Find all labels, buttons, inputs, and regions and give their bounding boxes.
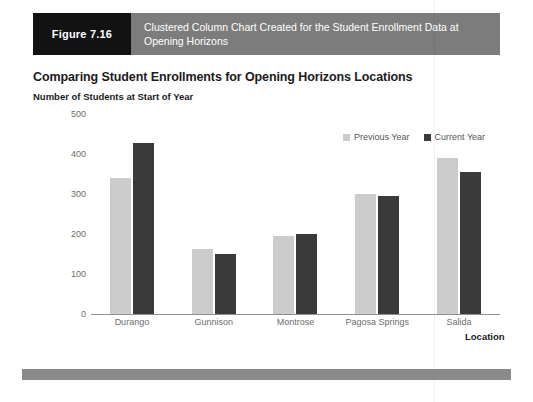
bar-current-year[interactable] (296, 234, 317, 314)
y-tick-label: 400 (71, 149, 86, 159)
x-axis-label: Gunnison (173, 317, 255, 327)
x-axis-label: Durango (91, 317, 173, 327)
x-axis-label: Montrose (255, 317, 337, 327)
bar-current-year[interactable] (460, 172, 481, 314)
bar-group (336, 114, 418, 314)
figure-number-box: Figure 7.16 (33, 13, 131, 55)
bar-current-year[interactable] (215, 254, 236, 314)
chart-subtitle: Number of Students at Start of Year (33, 91, 193, 102)
x-axis-labels: DurangoGunnisonMontrosePagosa SpringsSal… (91, 317, 500, 327)
x-axis-label: Salida (418, 317, 500, 327)
bars-area (91, 114, 500, 315)
bar-previous-year[interactable] (192, 249, 213, 314)
y-tick-label: 500 (71, 109, 86, 119)
chart-title: Comparing Student Enrollments for Openin… (33, 70, 412, 84)
bar-group (173, 114, 255, 314)
y-tick-label: 0 (81, 309, 86, 319)
y-tick-label: 300 (71, 189, 86, 199)
figure-caption-box: Clustered Column Chart Created for the S… (131, 13, 500, 55)
footer-bar (22, 369, 511, 380)
bar-previous-year[interactable] (437, 158, 458, 314)
bar-group (418, 114, 500, 314)
figure-number-label: Figure 7.16 (52, 28, 112, 40)
x-axis-label: Pagosa Springs (336, 317, 418, 327)
bar-previous-year[interactable] (110, 178, 131, 314)
figure-header: Figure 7.16 Clustered Column Chart Creat… (33, 13, 500, 55)
y-axis: 0100200300400500 (61, 114, 91, 323)
bar-group (255, 114, 337, 314)
figure-caption-text: Clustered Column Chart Created for the S… (144, 20, 492, 49)
chart-card: Comparing Student Enrollments for Openin… (33, 62, 500, 352)
bar-group (91, 114, 173, 314)
y-tick-label: 100 (71, 269, 86, 279)
x-axis-title: Location (465, 331, 505, 342)
plot-area: 0100200300400500 DurangoGunnisonMontrose… (61, 114, 500, 323)
y-tick-label: 200 (71, 229, 86, 239)
bar-previous-year[interactable] (355, 194, 376, 314)
bar-current-year[interactable] (133, 143, 154, 314)
bar-current-year[interactable] (378, 196, 399, 314)
bar-previous-year[interactable] (273, 236, 294, 314)
